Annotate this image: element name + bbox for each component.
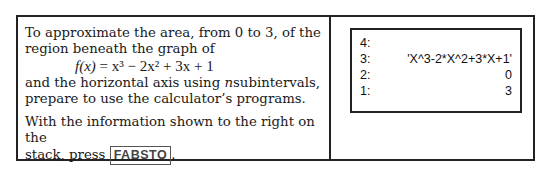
text-line: prepare to use the calculator’s programs… xyxy=(25,91,329,107)
stack-level: 4: xyxy=(360,35,370,51)
stack-row: 2:0 xyxy=(360,67,512,83)
stack-level: 2: xyxy=(360,67,370,83)
fabsto-key[interactable]: FABSTO xyxy=(110,146,171,165)
formula: f(x) = x³ − 2x² + 3x + 1 xyxy=(25,57,329,75)
instruction-table: To approximate the area, from 0 to 3, of… xyxy=(16,15,535,161)
text-span: . xyxy=(171,147,175,162)
stack-level: 3: xyxy=(360,51,370,67)
stack-row: 4: xyxy=(360,35,512,51)
text-line: With the information shown to the right … xyxy=(25,114,329,146)
text-span: subintervals, xyxy=(233,75,320,90)
text-span: and the horizontal axis using xyxy=(25,75,224,90)
text-line: region beneath the graph of xyxy=(25,41,329,57)
formula-rhs: = x³ − 2x² + 3x + 1 xyxy=(100,58,214,74)
text-span: stack, press xyxy=(25,147,110,162)
stack-level: 1: xyxy=(360,83,370,99)
text-line: stack, press FABSTO. xyxy=(25,146,329,165)
instruction-text: To approximate the area, from 0 to 3, of… xyxy=(18,17,331,159)
variable-n: n xyxy=(224,75,233,90)
formula-lhs: f(x) xyxy=(75,58,96,74)
calculator-stack-display: 4: 3:'X^3-2*X^2+3*X+1' 2:0 1:3 xyxy=(350,28,522,113)
stack-row: 3:'X^3-2*X^2+3*X+1' xyxy=(360,51,512,67)
stack-value: 0 xyxy=(505,67,512,83)
stack-value: 3 xyxy=(505,83,512,99)
text-line: To approximate the area, from 0 to 3, of… xyxy=(25,25,329,41)
stack-row: 1:3 xyxy=(360,83,512,99)
stack-value: 'X^3-2*X^2+3*X+1' xyxy=(407,51,512,67)
text-line: and the horizontal axis using nsubinterv… xyxy=(25,75,329,91)
